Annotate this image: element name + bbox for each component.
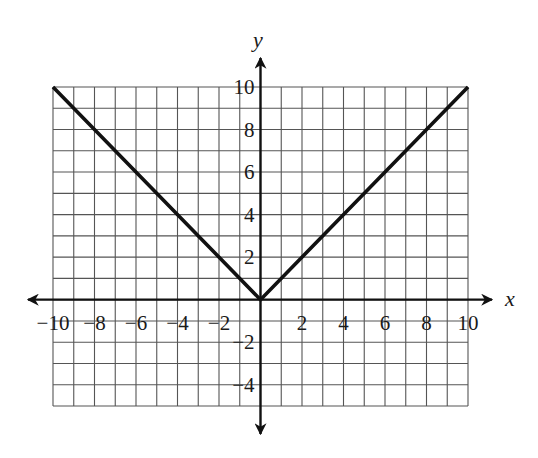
y-tick-label: 6 <box>244 160 255 184</box>
x-tick-label: 6 <box>380 311 391 335</box>
y-tick-label: 8 <box>244 118 255 142</box>
x-tick-label: 4 <box>338 311 349 335</box>
y-tick-label: 2 <box>244 245 255 269</box>
x-tick-label: 10 <box>458 311 479 335</box>
y-tick-label: 10 <box>234 75 255 99</box>
y-tick-label: 4 <box>244 203 255 227</box>
x-tick-label: 2 <box>297 311 308 335</box>
x-tick-label: −4 <box>166 311 189 335</box>
y-tick-label: −2 <box>232 330 254 354</box>
x-tick-label: −6 <box>125 311 147 335</box>
x-tick-label: −10 <box>37 311 70 335</box>
y-tick-label: −4 <box>232 373 255 397</box>
x-tick-label: −2 <box>208 311 230 335</box>
y-axis-label: y <box>251 27 263 52</box>
x-tick-label: −8 <box>83 311 105 335</box>
absolute-value-graph: −10−8−6−4−2246810108642−2−4 x y <box>0 0 538 458</box>
x-axis-label: x <box>504 286 515 311</box>
x-tick-label: 8 <box>421 311 432 335</box>
axes <box>28 58 492 434</box>
